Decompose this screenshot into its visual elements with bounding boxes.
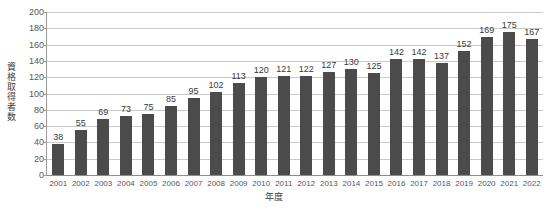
y-axis-title: 資格取得者数 <box>4 62 18 122</box>
bar <box>188 98 200 175</box>
y-tick-label: 140 <box>18 57 44 66</box>
bar <box>142 114 154 175</box>
bar-value-label: 127 <box>321 61 336 70</box>
bar-slot: 75 <box>137 12 160 175</box>
bar <box>481 37 493 175</box>
bar <box>413 59 425 175</box>
bar <box>526 39 538 175</box>
y-tick-label: 120 <box>18 73 44 82</box>
bar <box>120 116 132 175</box>
y-tick-label: 160 <box>18 41 44 50</box>
bar-slot: 120 <box>250 12 273 175</box>
bar-slot: 73 <box>115 12 138 175</box>
bar <box>390 59 402 175</box>
x-tick-label: 2005 <box>137 179 160 188</box>
y-axis-tick-labels: 200180160140120100806040200 <box>18 0 44 212</box>
bar-value-label: 152 <box>457 40 472 49</box>
x-tick-label: 2011 <box>272 179 295 188</box>
bar-value-label: 120 <box>254 66 269 75</box>
bar-value-label: 169 <box>479 26 494 35</box>
y-tick-label: 180 <box>18 24 44 33</box>
bar-value-label: 113 <box>231 72 245 81</box>
bar-slot: 38 <box>47 12 70 175</box>
bar-value-label: 122 <box>299 65 314 74</box>
bar-slot: 95 <box>182 12 205 175</box>
bar <box>233 83 245 175</box>
bar-value-label: 85 <box>166 95 176 104</box>
bar-slot: 169 <box>475 12 498 175</box>
bar-slot: 127 <box>318 12 341 175</box>
x-tick-label: 2009 <box>227 179 250 188</box>
bar-value-label: 75 <box>143 103 153 112</box>
bar-chart: 資格取得者数 200180160140120100806040200 38556… <box>0 0 547 212</box>
bar-slot: 137 <box>430 12 453 175</box>
bar-value-label: 69 <box>98 108 108 117</box>
bar <box>97 119 109 175</box>
bar-value-label: 95 <box>189 87 199 96</box>
bar-value-label: 137 <box>434 52 449 61</box>
bar-slot: 142 <box>385 12 408 175</box>
x-tick-label: 2003 <box>92 179 115 188</box>
x-tick-label: 2013 <box>318 179 341 188</box>
bar-slot: 102 <box>205 12 228 175</box>
bar-slot: 113 <box>227 12 250 175</box>
bar <box>368 73 380 175</box>
x-axis-tick-labels: 2001200220032004200520062007200820092010… <box>47 179 543 188</box>
bar-value-label: 125 <box>366 62 381 71</box>
bar <box>436 63 448 175</box>
bar-slot: 55 <box>70 12 93 175</box>
x-tick-label: 2020 <box>475 179 498 188</box>
bar <box>345 69 357 175</box>
x-tick-label: 2012 <box>295 179 318 188</box>
bar <box>458 51 470 175</box>
y-tick-label: 100 <box>18 90 44 99</box>
bar-slot: 130 <box>340 12 363 175</box>
bar <box>52 144 64 175</box>
x-tick-label: 2008 <box>205 179 228 188</box>
x-tick-label: 2014 <box>340 179 363 188</box>
y-tick-label: 200 <box>18 8 44 17</box>
x-tick-label: 2001 <box>47 179 70 188</box>
x-tick-label: 2018 <box>430 179 453 188</box>
y-tick-label: 0 <box>18 171 44 180</box>
x-tick-label: 2010 <box>250 179 273 188</box>
bar-slot: 122 <box>295 12 318 175</box>
x-tick-label: 2017 <box>408 179 431 188</box>
x-axis-title: 年度 <box>0 192 547 202</box>
y-tick-label: 60 <box>18 122 44 131</box>
y-tick-label: 80 <box>18 106 44 115</box>
x-tick-label: 2022 <box>520 179 543 188</box>
bar <box>210 92 222 175</box>
bar-value-label: 121 <box>276 65 291 74</box>
bar <box>323 72 335 176</box>
axis-baseline <box>47 175 543 176</box>
x-tick-label: 2015 <box>363 179 386 188</box>
bar-slot: 69 <box>92 12 115 175</box>
bar-value-label: 55 <box>76 119 86 128</box>
plot-area: 3855697375859510211312012112212713012514… <box>47 12 543 175</box>
bar-slot: 175 <box>498 12 521 175</box>
y-tick-label: 20 <box>18 155 44 164</box>
x-tick-label: 2004 <box>115 179 138 188</box>
bar-slot: 125 <box>363 12 386 175</box>
bar <box>255 77 267 175</box>
bar-value-label: 167 <box>524 28 539 37</box>
bar-value-label: 102 <box>209 81 224 90</box>
bar <box>75 130 87 175</box>
bar-slot: 85 <box>160 12 183 175</box>
x-tick-label: 2019 <box>453 179 476 188</box>
bar-slot: 152 <box>453 12 476 175</box>
bar-value-label: 73 <box>121 105 131 114</box>
bar <box>300 76 312 175</box>
bar <box>278 76 290 175</box>
x-tick-label: 2006 <box>160 179 183 188</box>
bar-slot: 167 <box>520 12 543 175</box>
bar <box>165 106 177 175</box>
bar-value-label: 130 <box>344 58 359 67</box>
x-tick-label: 2016 <box>385 179 408 188</box>
x-tick-label: 2002 <box>70 179 93 188</box>
bar <box>503 32 515 175</box>
bar-value-label: 38 <box>53 133 63 142</box>
bar-value-label: 142 <box>412 48 427 57</box>
bar-slot: 121 <box>272 12 295 175</box>
